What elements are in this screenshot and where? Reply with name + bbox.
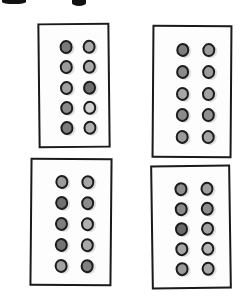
well-circle	[177, 43, 190, 57]
tray-top-left	[37, 23, 110, 149]
well-circle	[202, 65, 215, 79]
well-circle	[83, 40, 96, 54]
well-circle	[201, 242, 214, 256]
well-circle	[83, 100, 96, 114]
well-circle	[176, 108, 189, 122]
tray-top-right	[152, 25, 233, 159]
well-circle	[55, 238, 68, 252]
well-circle	[202, 108, 215, 122]
well-circle	[175, 182, 188, 196]
cropped-glyph	[72, 0, 86, 6]
well-circle	[201, 262, 214, 276]
well-circle	[81, 217, 94, 231]
well-circle	[60, 81, 73, 95]
well-circle	[55, 175, 68, 189]
well-circle	[55, 196, 68, 210]
tray-bottom-left	[29, 158, 112, 287]
well-circle	[84, 121, 97, 135]
well-circle	[175, 202, 188, 216]
well-circle	[201, 202, 214, 216]
well-circle	[81, 175, 94, 189]
well-circle	[201, 222, 214, 236]
well-circle	[83, 60, 96, 74]
well-circle	[202, 87, 215, 101]
well-circle	[60, 101, 73, 115]
cropped-glyph	[2, 0, 26, 4]
well-circle	[176, 130, 189, 144]
well-circle	[176, 65, 189, 79]
well-circle	[176, 242, 189, 256]
well-circle	[202, 130, 215, 144]
well-circle	[55, 217, 68, 231]
well-circle	[81, 196, 94, 210]
well-circle	[81, 259, 94, 273]
well-circle	[81, 238, 94, 252]
well-circle	[60, 40, 73, 54]
well-circle	[60, 60, 73, 74]
well-circle	[83, 80, 96, 94]
well-circle	[176, 262, 189, 276]
well-circle	[200, 182, 213, 196]
tray-bottom-right	[150, 164, 232, 289]
well-circle	[176, 86, 189, 100]
well-circle	[175, 222, 188, 236]
well-circle	[55, 258, 68, 272]
well-circle	[61, 121, 74, 135]
well-circle	[202, 43, 215, 57]
